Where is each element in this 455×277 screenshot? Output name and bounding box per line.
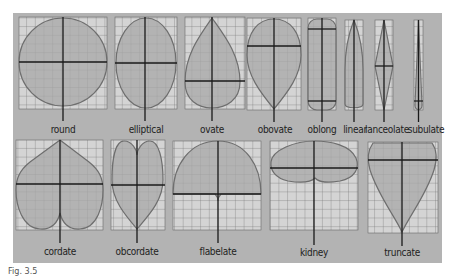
leaf-oblong — [308, 18, 336, 122]
leaf-cordate — [16, 140, 103, 243]
label-kidney: kidney — [300, 247, 328, 258]
leaf-ovate — [185, 17, 245, 121]
leaf-elliptical — [115, 17, 177, 121]
label-ovate: ovate — [200, 124, 224, 135]
label-subulate: subulate — [408, 124, 444, 135]
leaf-flabelate — [173, 141, 261, 243]
label-round: round — [51, 124, 76, 135]
leaf-round — [19, 17, 107, 121]
leaf-obovate — [247, 18, 301, 122]
label-cordate: cordate — [44, 246, 76, 257]
label-obovate: obovate — [258, 124, 293, 135]
label-flabelate: flabelate — [200, 246, 237, 257]
leaf-obcordate — [111, 140, 165, 243]
leaf-linear — [345, 20, 363, 122]
label-linear: linear — [343, 124, 367, 135]
label-elliptical: elliptical — [129, 124, 164, 135]
label-oblong: oblong — [308, 124, 337, 135]
figure-caption: Fig. 3.5 — [8, 266, 37, 276]
leaf-truncate — [368, 142, 438, 246]
leaf-subulate — [414, 20, 423, 122]
label-lanceolate: lanceolate — [365, 124, 409, 135]
leaf-shapes-diagram — [0, 0, 455, 277]
leaf-kidney — [270, 141, 358, 245]
leaf-lanceolate — [375, 20, 393, 122]
label-truncate: truncate — [384, 247, 420, 258]
label-obcordate: obcordate — [116, 246, 159, 257]
